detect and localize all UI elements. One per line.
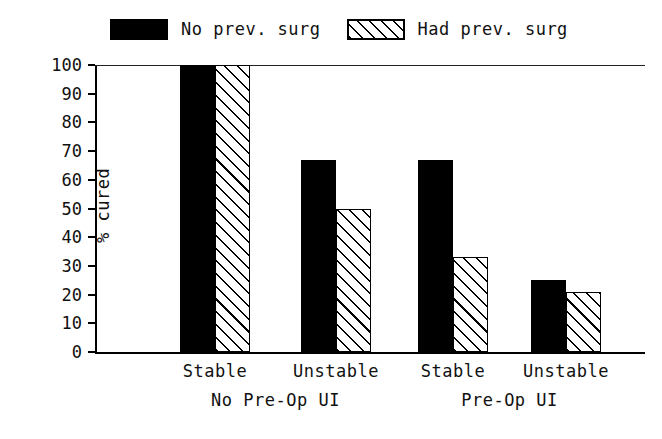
y-tick-label: 100 bbox=[38, 57, 82, 74]
plot-area: % cured 0102030405060708090100 StableUns… bbox=[95, 65, 645, 352]
y-tick-mark bbox=[88, 208, 95, 210]
bar-chart-figure: No prev. surg Had prev. surg % cured 010… bbox=[0, 0, 662, 439]
legend-label-had-prev-surg: Had prev. surg bbox=[418, 19, 568, 39]
bar-solid-1 bbox=[301, 160, 336, 352]
x-axis-line bbox=[95, 352, 645, 354]
bar-hatch-2 bbox=[453, 257, 488, 352]
y-tick-mark bbox=[88, 121, 95, 123]
top-reference-rule bbox=[95, 65, 645, 66]
chart-legend: No prev. surg Had prev. surg bbox=[110, 17, 568, 41]
y-tick-label: 70 bbox=[38, 143, 82, 160]
legend-entry-no-prev-surg: No prev. surg bbox=[110, 19, 321, 40]
legend-entry-had-prev-surg: Had prev. surg bbox=[347, 19, 568, 40]
y-tick-label: 50 bbox=[38, 201, 82, 218]
x-category-label: Stable bbox=[155, 361, 275, 381]
bar-solid-3 bbox=[531, 280, 566, 352]
y-tick-mark bbox=[88, 322, 95, 324]
y-tick-label: 0 bbox=[38, 344, 82, 361]
bar-hatch-1 bbox=[336, 209, 371, 353]
y-tick-label: 40 bbox=[38, 229, 82, 246]
x-group-label: Pre-Op UI bbox=[420, 390, 600, 410]
y-tick-mark bbox=[88, 93, 95, 95]
legend-label-no-prev-surg: No prev. surg bbox=[181, 19, 321, 39]
y-tick-label: 20 bbox=[38, 287, 82, 304]
y-tick-label: 60 bbox=[38, 172, 82, 189]
y-tick-mark bbox=[88, 265, 95, 267]
y-tick-mark bbox=[88, 294, 95, 296]
y-tick-label: 80 bbox=[38, 114, 82, 131]
legend-swatch-hatch-icon bbox=[347, 19, 405, 40]
y-tick-mark bbox=[88, 236, 95, 238]
legend-swatch-solid-icon bbox=[110, 19, 168, 40]
bar-solid-0 bbox=[180, 65, 215, 352]
y-axis-line bbox=[95, 65, 97, 353]
bar-hatch-3 bbox=[566, 292, 601, 352]
y-tick-label: 90 bbox=[38, 86, 82, 103]
x-category-label: Stable bbox=[393, 361, 513, 381]
x-category-label: Unstable bbox=[276, 361, 396, 381]
bar-solid-2 bbox=[418, 160, 453, 352]
y-tick-label: 30 bbox=[38, 258, 82, 275]
y-tick-mark bbox=[88, 64, 95, 66]
y-tick-mark bbox=[88, 179, 95, 181]
y-tick-mark bbox=[88, 150, 95, 152]
y-tick-mark bbox=[88, 351, 95, 353]
y-tick-label: 10 bbox=[38, 315, 82, 332]
bar-hatch-0 bbox=[215, 65, 250, 352]
x-category-label: Unstable bbox=[506, 361, 626, 381]
x-group-label: No Pre-Op UI bbox=[186, 390, 366, 410]
